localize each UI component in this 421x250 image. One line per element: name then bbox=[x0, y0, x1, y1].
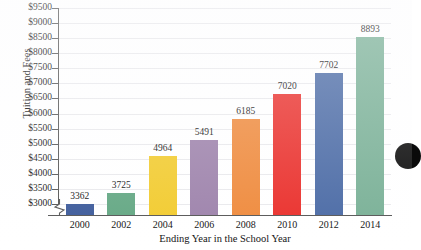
y-tick-mark bbox=[52, 83, 59, 84]
bar-2012[interactable]: 7702 bbox=[315, 8, 343, 215]
x-tick-label: 2004 bbox=[140, 219, 186, 230]
bar-2006[interactable]: 5491 bbox=[190, 8, 218, 215]
y-tick-mark bbox=[52, 129, 59, 130]
bar-2008[interactable]: 6185 bbox=[232, 8, 260, 215]
bar-rect bbox=[315, 73, 343, 215]
y-tick-mark bbox=[52, 53, 59, 54]
bar-value-label: 6185 bbox=[223, 106, 269, 116]
x-tick-label: 2000 bbox=[57, 219, 103, 230]
bar-2000[interactable]: 3362 bbox=[66, 8, 94, 215]
bar-value-label: 7020 bbox=[264, 81, 310, 91]
bar-value-label: 7702 bbox=[306, 60, 352, 70]
x-tick-label: 2002 bbox=[98, 219, 144, 230]
y-tick-label: $3500 bbox=[8, 184, 52, 194]
y-tick-mark bbox=[52, 174, 59, 175]
y-axis-title: Tuition and Fees bbox=[21, 4, 32, 164]
bar-2010[interactable]: 7020 bbox=[273, 8, 301, 215]
y-tick-mark bbox=[52, 38, 59, 39]
x-axis-title: Ending Year in the School Year bbox=[0, 233, 412, 244]
bar-rect bbox=[356, 37, 384, 215]
bar-rect bbox=[66, 204, 94, 215]
x-tick-label: 2006 bbox=[181, 219, 227, 230]
bar-value-label: 3725 bbox=[98, 180, 144, 190]
bar-rect bbox=[190, 140, 218, 215]
x-tick-label: 2012 bbox=[306, 219, 352, 230]
bar-rect bbox=[273, 94, 301, 215]
y-tick-mark bbox=[52, 189, 59, 190]
bar-2014[interactable]: 8893 bbox=[356, 8, 384, 215]
y-tick-mark bbox=[52, 23, 59, 24]
bar-value-label: 4964 bbox=[140, 143, 186, 153]
bar-2002[interactable]: 3725 bbox=[107, 8, 135, 215]
y-tick-mark bbox=[52, 8, 59, 9]
y-tick-mark bbox=[52, 98, 59, 99]
x-tick-label: 2014 bbox=[347, 219, 393, 230]
y-tick-mark bbox=[52, 144, 59, 145]
bar-rect bbox=[149, 156, 177, 215]
axis-break-icon bbox=[53, 199, 66, 216]
bar-value-label: 8893 bbox=[347, 24, 393, 34]
y-tick-mark bbox=[52, 114, 59, 115]
bar-2004[interactable]: 4964 bbox=[149, 8, 177, 215]
bar-value-label: 5491 bbox=[181, 127, 227, 137]
bar-rect bbox=[232, 119, 260, 215]
edge-marker-dot bbox=[395, 143, 421, 169]
y-tick-mark bbox=[52, 159, 59, 160]
y-tick-mark bbox=[52, 68, 59, 69]
y-tick-label: $3000 bbox=[8, 199, 52, 209]
bar-rect bbox=[107, 193, 135, 215]
bars-layer: 33623725496454916185702077028893 bbox=[59, 8, 391, 215]
x-tick-label: 2010 bbox=[264, 219, 310, 230]
y-tick-label: $4000 bbox=[8, 169, 52, 179]
x-tick-label: 2008 bbox=[223, 219, 269, 230]
